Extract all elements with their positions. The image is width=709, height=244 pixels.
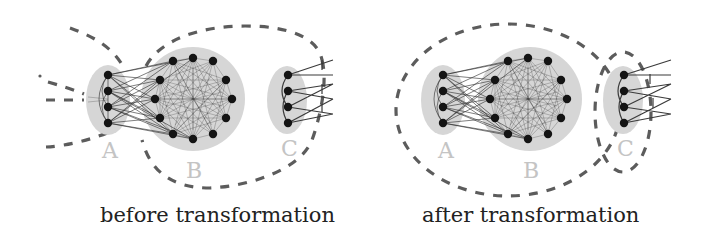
caption-before: before transformation: [100, 203, 335, 227]
panel-after: A B C after transformation: [396, 24, 671, 227]
cluster-label-a: A: [437, 138, 455, 163]
cluster-label-b: B: [523, 158, 539, 183]
cluster-label-c: C: [281, 136, 298, 161]
diagram-canvas: A B C before transformation: [0, 0, 709, 244]
panel-before: A B C before transformation: [38, 26, 335, 227]
cluster-label-b: B: [186, 158, 202, 183]
caption-after: after transformation: [422, 203, 639, 227]
cluster-label-a: A: [101, 138, 119, 163]
cluster-label-c: C: [617, 136, 634, 161]
